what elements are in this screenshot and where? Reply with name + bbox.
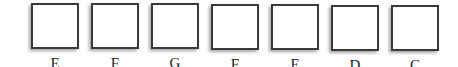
empty-box bbox=[211, 4, 259, 50]
empty-box bbox=[271, 4, 319, 50]
note-cell-4: F bbox=[211, 4, 259, 67]
note-label: C bbox=[391, 58, 439, 67]
empty-box bbox=[151, 3, 199, 49]
empty-box bbox=[31, 3, 79, 49]
empty-box bbox=[391, 5, 439, 51]
note-cell-6: D bbox=[331, 5, 379, 67]
empty-box bbox=[91, 3, 139, 49]
note-box-row: E F G F E D C bbox=[0, 0, 458, 67]
note-cell-3: G bbox=[151, 3, 199, 67]
note-cell-5: E bbox=[271, 4, 319, 67]
note-label: E bbox=[31, 56, 79, 67]
note-label: F bbox=[91, 56, 139, 67]
note-label: D bbox=[331, 58, 379, 67]
note-cell-7: C bbox=[391, 5, 439, 67]
empty-box bbox=[331, 5, 379, 51]
note-cell-1: E bbox=[31, 3, 79, 67]
note-label: F bbox=[211, 57, 259, 67]
note-cell-2: F bbox=[91, 3, 139, 67]
note-label: G bbox=[151, 56, 199, 67]
note-label: E bbox=[271, 57, 319, 67]
